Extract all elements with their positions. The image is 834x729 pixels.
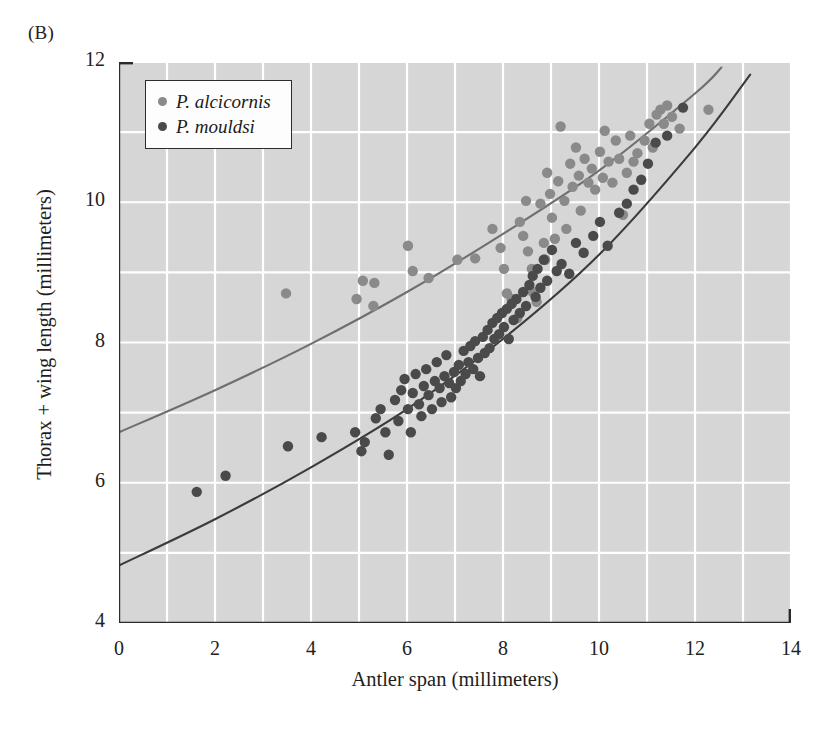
y-tick-label: 10	[65, 188, 105, 211]
x-tick-label: 10	[577, 637, 621, 660]
y-tick-label: 4	[65, 609, 105, 632]
legend-label-alcicornis: P. alcicornis	[176, 91, 271, 113]
x-tick-label: 6	[385, 637, 429, 660]
x-axis-title: Antler span (millimeters)	[119, 668, 791, 691]
y-tick-label: 8	[65, 329, 105, 352]
legend-item-alcicornis: P. alcicornis	[158, 89, 271, 114]
legend: P. alcicornis P. mouldsi	[145, 80, 292, 149]
x-tick-label: 2	[193, 637, 237, 660]
x-tick-label: 4	[289, 637, 333, 660]
legend-item-mouldsi: P. mouldsi	[158, 114, 271, 139]
x-tick-label: 14	[769, 637, 813, 660]
x-tick-label: 0	[97, 637, 141, 660]
legend-dot-alcicornis-icon	[158, 97, 167, 106]
legend-dot-mouldsi-icon	[158, 122, 167, 131]
y-axis-title: Thorax + wing length (millimeters)	[33, 100, 56, 570]
figure-panel-b: (B) Thorax + wing length (millimeters) A…	[0, 0, 834, 729]
legend-label-mouldsi: P. mouldsi	[176, 116, 255, 138]
y-tick-label: 12	[65, 48, 105, 71]
y-tick-label: 6	[65, 469, 105, 492]
x-tick-label: 8	[481, 637, 525, 660]
x-tick-label: 12	[673, 637, 717, 660]
panel-label: (B)	[28, 22, 54, 44]
